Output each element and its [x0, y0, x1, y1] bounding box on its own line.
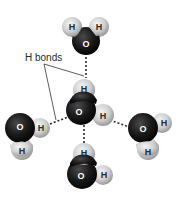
- hydrogen-label: H: [100, 111, 107, 121]
- oxygen-label: O: [82, 39, 89, 49]
- water-molecule-top: H H O: [62, 17, 109, 55]
- hydrogen-label: H: [161, 118, 168, 128]
- water-molecule-left: O H H: [5, 113, 50, 160]
- callout-pointer-top: [44, 64, 84, 76]
- h-bond-left: [50, 117, 68, 124]
- water-molecule-right: O H H: [128, 113, 172, 160]
- water-hydrogen-bond-diagram: H bonds H H O H O H O H H O: [0, 0, 178, 207]
- hydrogen-label: H: [38, 123, 45, 133]
- hydrogen-label: H: [101, 170, 108, 180]
- water-molecule-center: H O H: [66, 79, 114, 126]
- h-bonds-label: H bonds: [25, 52, 62, 63]
- callout-pointer-left: [44, 64, 56, 120]
- hydrogen-label: H: [81, 84, 88, 94]
- oxygen-label: O: [75, 107, 82, 117]
- h-bond-right: [110, 120, 129, 127]
- hydrogen-label: H: [19, 146, 26, 156]
- hydrogen-label: H: [145, 147, 152, 157]
- oxygen-label: O: [16, 122, 23, 132]
- oxygen-label: O: [139, 124, 146, 134]
- hydrogen-label: H: [69, 22, 76, 32]
- hydrogen-label: H: [96, 22, 103, 32]
- oxygen-label: O: [77, 171, 84, 181]
- water-molecule-bottom: H O H: [67, 143, 113, 189]
- hydrogen-label: H: [81, 148, 88, 158]
